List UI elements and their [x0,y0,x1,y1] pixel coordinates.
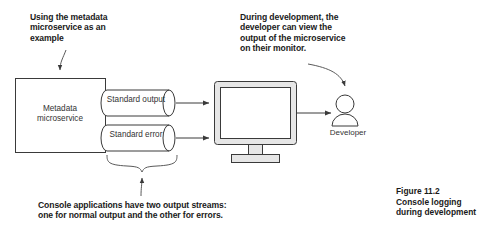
callout-source-text: Using the metadata microservice as an ex… [30,12,160,43]
figure-caption: Figure 11.2 Console logging during devel… [396,186,487,218]
leader-streams-caption [141,178,142,196]
streams-brace [107,155,177,172]
metadata-microservice-label: Metadata microservice [16,104,104,124]
callout-streams-text: Console applications have two output str… [38,200,298,221]
developer-icon [332,95,358,126]
monitor-icon [215,82,297,163]
leader-source-to-box [60,50,66,70]
standard-error-label: Standard error [100,130,172,140]
leader-monitor-to-developer [308,64,345,86]
standard-output-label: Standard output [100,95,172,105]
callout-monitor-text: During development, the developer can vi… [240,12,400,54]
developer-label: Developer [320,128,376,138]
figure-canvas: Using the metadata microservice as an ex… [0,0,487,240]
